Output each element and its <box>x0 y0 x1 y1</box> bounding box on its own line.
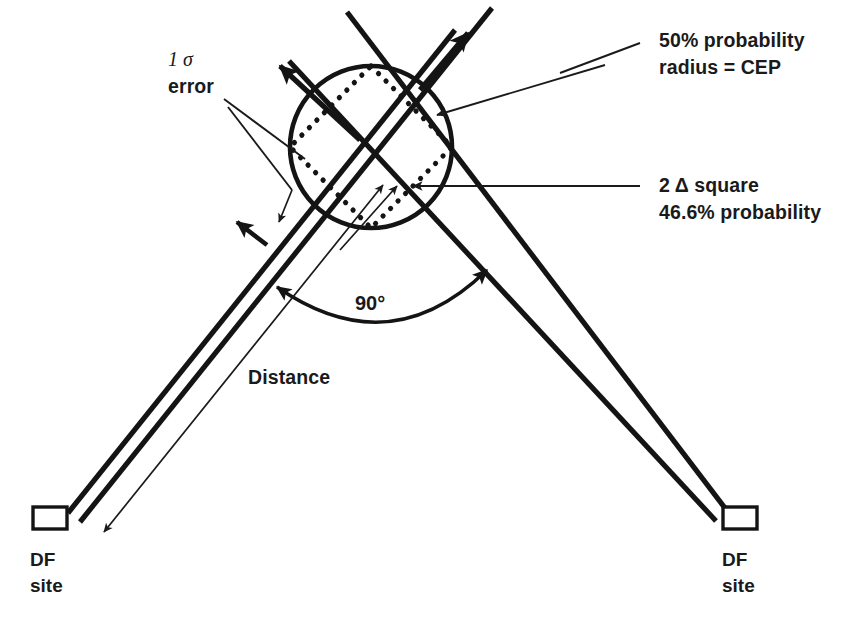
cep-label-line2: radius = CEP <box>659 56 781 78</box>
bearing-line-right-upper <box>347 12 728 512</box>
df-triangulation-diagram: 50% probability radius = CEP 2 Δ square … <box>0 0 853 637</box>
sigma-leader-line-lower <box>228 107 292 190</box>
sigma-gap-arrow-lower <box>237 222 267 245</box>
bearing-lines-right-site <box>289 12 728 521</box>
diagram-canvas: 50% probability radius = CEP 2 Δ square … <box>0 0 853 637</box>
angle-label: 90° <box>355 292 385 314</box>
df-site-left-label-line2: site <box>30 575 63 596</box>
sigma-gap-arrow-upper <box>279 190 292 222</box>
df-site-left <box>33 507 67 529</box>
bearing-line-left-lower <box>80 8 492 522</box>
bearing-lines-left-site <box>68 8 492 522</box>
center-indicator-arrow <box>340 186 397 250</box>
sigma-label-line1: 1 σ <box>168 48 194 70</box>
bearing-line-left-upper <box>68 30 455 513</box>
df-site-right-label-line1: DF <box>722 549 747 570</box>
distance-label: Distance <box>248 366 330 388</box>
delta-label-line2: 46.6% probability <box>659 201 821 223</box>
sigma-label-line2: error <box>168 75 214 97</box>
distance-arrow <box>104 185 383 532</box>
cep-leader-upper <box>560 43 640 73</box>
cep-callout-leader <box>437 43 640 115</box>
cep-label-line1: 50% probability <box>659 29 805 51</box>
df-site-left-label-line1: DF <box>30 549 55 570</box>
delta-label-line1: 2 Δ square <box>659 174 759 196</box>
df-site-right-label-line2: site <box>722 575 755 596</box>
df-site-right <box>723 507 757 529</box>
cep-leader-arrow <box>437 65 605 115</box>
bearing-line-right-lower <box>289 61 716 521</box>
